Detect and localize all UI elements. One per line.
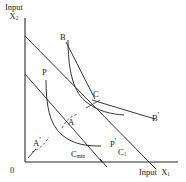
origin-tick-icon [28, 149, 36, 158]
label-point-a: A [68, 118, 74, 127]
label-isocost-cmin: Cmin [71, 150, 85, 160]
label-b: B [60, 33, 66, 42]
label-p: P [42, 68, 47, 77]
x-axis-title: Input X1 [139, 168, 170, 178]
x-axis-title-word: Input [139, 167, 157, 177]
isocost-line-cmin [25, 74, 102, 162]
isocost-line-cmin-extension [100, 159, 107, 167]
expansion-path-segment-b-prime [92, 100, 155, 119]
label-b-prime: B' [152, 112, 159, 123]
label-point-c: C [93, 90, 99, 99]
label-isocost-c1: C1 [118, 148, 126, 158]
origin-label: 0 [10, 166, 14, 175]
y-axis-title: Input X2 [5, 3, 23, 22]
x-axis-title-variable: X1 [159, 167, 170, 177]
label-p-prime: P' [110, 138, 116, 149]
isoquant-curve-p-prime [68, 40, 124, 115]
figure-canvas: Input X2 Input X1 0 B B' P P' C A A' Cmi… [0, 0, 186, 182]
label-point-a-prime: A' [33, 137, 41, 148]
y-axis-title-variable: X2 [5, 12, 23, 22]
